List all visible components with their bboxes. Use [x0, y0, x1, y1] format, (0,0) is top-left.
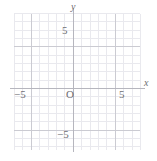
origin-label: O: [66, 89, 74, 100]
x-tick-label-5: 5: [119, 89, 125, 100]
y-tick-label-5: 5: [62, 25, 68, 36]
minor-horizontal-gridlines: [14, 14, 140, 147]
y-tick-label-minus-5: −5: [57, 129, 69, 140]
x-axis-label: x: [144, 78, 148, 88]
grid-canvas: [0, 0, 157, 161]
coordinate-plane-figure: y x 5 −5 5 −5 O: [0, 0, 157, 161]
x-tick-label-minus-5: −5: [14, 89, 26, 100]
y-axis-label: y: [71, 2, 75, 12]
minor-vertical-gridlines: [15, 14, 141, 150]
